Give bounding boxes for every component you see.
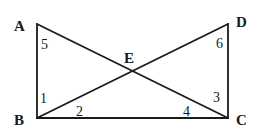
geometry-diagram: ABCDE 512436 (0, 0, 260, 133)
angle-label-6: 6 (216, 36, 223, 51)
diagram-svg: ABCDE 512436 (0, 0, 260, 133)
angle-labels: 512436 (40, 36, 223, 119)
angle-label-5: 5 (41, 37, 48, 52)
angle-label-1: 1 (40, 91, 47, 106)
point-label-a: A (14, 18, 25, 34)
angle-label-4: 4 (183, 104, 190, 119)
segments (37, 24, 228, 118)
angle-label-2: 2 (76, 104, 83, 119)
point-label-d: D (236, 14, 247, 30)
point-label-b: B (14, 112, 24, 128)
angle-label-3: 3 (213, 90, 220, 105)
point-label-e: E (124, 50, 134, 66)
point-label-c: C (236, 112, 247, 128)
